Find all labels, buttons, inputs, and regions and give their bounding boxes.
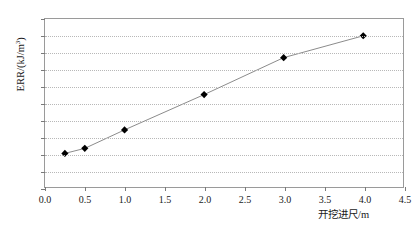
- data-point-marker: [201, 91, 208, 98]
- y-axis-tick: [41, 70, 45, 71]
- gridline-horizontal: [45, 36, 403, 37]
- x-axis-tick-label: 2.0: [185, 195, 225, 205]
- gridline-horizontal: [45, 104, 403, 105]
- x-axis-tick-label: 1.0: [105, 195, 145, 205]
- x-axis-tick: [165, 187, 166, 191]
- x-axis-tick-label: 4.5: [385, 195, 418, 205]
- x-axis-tick: [405, 187, 406, 191]
- y-axis-tick: [41, 104, 45, 105]
- data-point-marker: [121, 126, 128, 133]
- x-axis-tick-label: 0.5: [65, 195, 105, 205]
- y-axis-tick: [41, 19, 45, 20]
- y-axis-tick: [41, 87, 45, 88]
- y-axis-tick: [41, 155, 45, 156]
- data-point-marker: [280, 54, 287, 61]
- x-axis-tick-label: 0.0: [25, 195, 65, 205]
- x-axis-tick: [205, 187, 206, 191]
- y-axis-tick: [41, 138, 45, 139]
- gridline-horizontal: [45, 87, 403, 88]
- x-axis-tick-label: 4.0: [345, 195, 385, 205]
- gridline-horizontal: [45, 70, 403, 71]
- x-axis-title: 开挖进尺/m: [318, 206, 369, 221]
- plot-area: 1501551601651701751801851901952000.00.51…: [44, 18, 404, 188]
- x-axis-tick-label: 3.0: [265, 195, 305, 205]
- y-axis-title-tail: ): [15, 37, 26, 41]
- x-axis-tick: [365, 187, 366, 191]
- x-axis-tick-label: 2.5: [225, 195, 265, 205]
- gridline-horizontal: [45, 138, 403, 139]
- gridline-horizontal: [45, 121, 403, 122]
- y-axis-title-exponent: 3: [14, 41, 22, 45]
- data-point-marker: [81, 145, 88, 152]
- x-axis-tick: [285, 187, 286, 191]
- y-axis-title-base: ERR/(kJ/m: [15, 44, 26, 91]
- y-axis-tick: [41, 121, 45, 122]
- data-series-layer: [45, 19, 403, 187]
- x-axis-tick: [85, 187, 86, 191]
- gridline-horizontal: [45, 53, 403, 54]
- y-axis-tick: [41, 172, 45, 173]
- chart-figure: ERR/(kJ/m3) 开挖进尺/m 150155160165170175180…: [0, 0, 418, 230]
- x-axis-tick: [245, 187, 246, 191]
- x-axis-tick-label: 1.5: [145, 195, 185, 205]
- y-axis-title: ERR/(kJ/m3): [14, 4, 27, 124]
- y-axis-tick: [41, 36, 45, 37]
- x-axis-tick-label: 3.5: [305, 195, 345, 205]
- gridline-horizontal: [45, 172, 403, 173]
- y-axis-tick: [41, 53, 45, 54]
- x-axis-tick: [125, 187, 126, 191]
- gridline-horizontal: [45, 155, 403, 156]
- x-axis-tick: [45, 187, 46, 191]
- x-axis-tick: [325, 187, 326, 191]
